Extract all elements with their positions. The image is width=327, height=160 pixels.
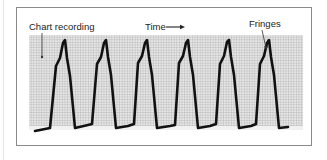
label-fringes: Fringes [249,18,281,29]
time-arrow-head-icon [180,25,185,29]
chart-recording-arrow-head [41,56,43,58]
chart-recording-diagram: Chart recording Time Fringes [0,0,327,160]
label-chart-recording: Chart recording [29,21,94,32]
label-time: Time [145,21,166,32]
